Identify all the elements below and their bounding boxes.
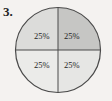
pie-chart <box>14 6 102 94</box>
pie-label-bottom-right: 25% <box>64 61 80 70</box>
pie-chart-svg <box>14 6 102 94</box>
pie-label-bottom-left: 25% <box>34 61 50 70</box>
pie-label-top-left: 25% <box>34 32 50 41</box>
item-number-label: 3. <box>3 5 13 19</box>
pie-label-top-right: 25% <box>64 32 80 41</box>
figure-container: 3. 25% 25% 25% 25% <box>0 0 112 101</box>
